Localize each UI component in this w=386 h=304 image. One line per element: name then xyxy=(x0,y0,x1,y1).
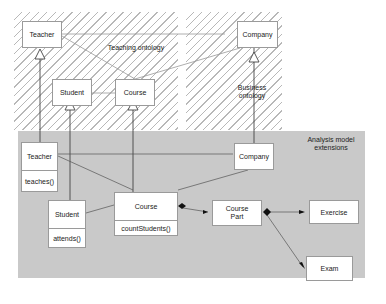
arrowhead-coursepart xyxy=(203,210,208,214)
class-name-line2: Part xyxy=(231,213,244,221)
class-name: Company xyxy=(235,144,273,169)
analysis-extensions-label: Analysis model extensions xyxy=(300,136,362,152)
business-label-line1: Business xyxy=(232,84,272,92)
association-course-company-analysis xyxy=(178,170,248,190)
composition-diamond-coursepart xyxy=(263,208,271,216)
analysis-class-exercise[interactable]: Exercise xyxy=(309,200,359,224)
inheritance-arrow-teacher xyxy=(35,49,45,59)
class-operation: countStudents() xyxy=(115,220,177,236)
class-operation: teaches() xyxy=(22,170,57,192)
class-name: Exam xyxy=(307,257,352,280)
class-name: Course Part xyxy=(213,201,261,225)
class-name: Company xyxy=(238,22,277,47)
class-operation: attends() xyxy=(49,228,85,248)
analysis-class-company[interactable]: Company xyxy=(234,143,274,170)
inheritance-arrow-company xyxy=(249,52,259,62)
association-teacher-course xyxy=(62,36,135,79)
class-name: Course xyxy=(115,193,177,220)
ontology-class-teacher[interactable]: Teacher xyxy=(22,21,62,48)
composition-coursepart-exam xyxy=(267,215,303,267)
business-ontology-label: Business ontology xyxy=(232,84,272,100)
association-course-company xyxy=(135,48,240,79)
analysis-label-line1: Analysis model xyxy=(300,136,362,144)
analysis-class-exam[interactable]: Exam xyxy=(306,256,353,281)
analysis-class-student[interactable]: Student attends() xyxy=(48,200,86,248)
association-student-course-analysis xyxy=(86,205,114,213)
business-label-line2: ontology xyxy=(232,92,272,100)
class-name-line1: Course xyxy=(226,205,249,213)
class-name: Student xyxy=(49,201,85,228)
class-name: Teacher xyxy=(22,143,57,170)
class-name: Student xyxy=(53,80,91,105)
analysis-class-course-part[interactable]: Course Part xyxy=(212,200,262,226)
analysis-label-line2: extensions xyxy=(300,144,362,152)
ontology-class-course[interactable]: Course xyxy=(115,79,155,106)
analysis-class-teacher[interactable]: Teacher teaches() xyxy=(21,142,58,192)
class-name: Course xyxy=(116,80,154,105)
analysis-class-course[interactable]: Course countStudents() xyxy=(114,192,178,236)
arrowhead-exam xyxy=(299,262,305,269)
ontology-class-company[interactable]: Company xyxy=(237,21,278,48)
teaching-ontology-label: Teaching ontology xyxy=(96,44,176,52)
ontology-class-student[interactable]: Student xyxy=(52,79,92,106)
arrowhead-exercise xyxy=(299,210,305,214)
class-name: Teacher xyxy=(23,22,61,47)
class-name: Exercise xyxy=(310,201,358,223)
association-teacher-course-analysis xyxy=(58,156,133,190)
